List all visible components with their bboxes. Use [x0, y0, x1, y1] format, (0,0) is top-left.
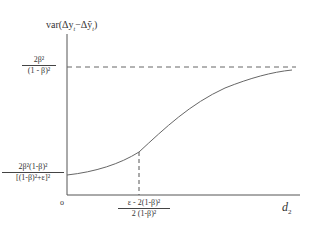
inflection-tick-label: ε - 2(1-β)² 2 (1-β)²: [118, 199, 170, 218]
intercept-denominator: [(1-β)²+ε]²: [2, 173, 64, 182]
intercept-numerator: 2β²(1-β)²: [2, 163, 64, 173]
origin-label: o: [60, 199, 64, 207]
x-axis-label: d2: [282, 201, 292, 216]
y-axis-label: var(Δyt−Δỹt): [46, 20, 97, 32]
asymptote-tick-label: 2β² (1 - β)²: [22, 56, 56, 75]
inflection-numerator: ε - 2(1-β)²: [118, 199, 170, 209]
inflection-denominator: 2 (1-β)²: [118, 209, 170, 218]
intercept-tick-label: 2β²(1-β)² [(1-β)²+ε]²: [2, 163, 64, 182]
variance-curve: [67, 70, 292, 175]
asymptote-numerator: 2β²: [22, 56, 56, 66]
asymptote-denominator: (1 - β)²: [22, 66, 56, 75]
